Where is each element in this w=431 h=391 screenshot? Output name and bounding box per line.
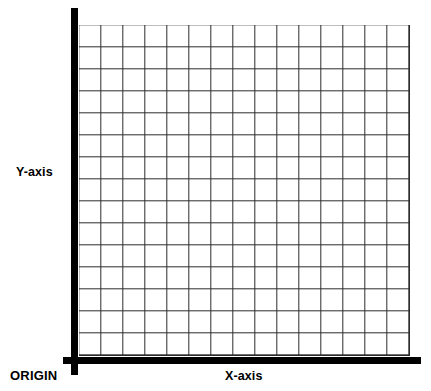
plot-grid-area bbox=[79, 25, 409, 355]
y-axis-label: Y-axis bbox=[16, 166, 53, 179]
cartesian-coordinate-grid: Y-axis X-axis ORIGIN bbox=[0, 0, 431, 391]
x-axis-line bbox=[63, 357, 421, 364]
origin-label: ORIGIN bbox=[10, 369, 57, 382]
y-axis-line bbox=[71, 8, 78, 375]
x-axis-label: X-axis bbox=[225, 370, 262, 383]
